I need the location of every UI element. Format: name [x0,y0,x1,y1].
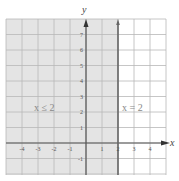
y-tick-label: 1 [80,125,83,131]
x-tick-label: -2 [52,146,57,152]
x-axis-label: x [169,137,175,148]
y-tick-label: 3 [80,94,83,100]
x-tick-label: 4 [149,146,152,152]
x-tick-label: -4 [20,146,25,152]
x-tick-label: 1 [101,146,104,152]
x-tick-label: -1 [68,146,73,152]
y-tick-label: 4 [80,78,83,84]
x-axis-arrow-icon [161,141,170,146]
y-tick-label: 7 [80,32,83,38]
inequality-graph: -4-3-2-112347654321-1 x y x ≤ 2 x = 2 [0,0,179,181]
x-tick-label: -3 [36,146,41,152]
annotation-boundary: x = 2 [122,102,143,113]
y-axis-label: y [81,4,87,15]
y-tick-label: -1 [78,156,83,162]
x-tick-label: 3 [133,146,136,152]
annotation-inequality: x ≤ 2 [34,102,55,113]
y-tick-label: 6 [80,47,83,53]
y-tick-label: 2 [80,109,83,115]
x-tick-label: 2 [117,146,120,152]
y-tick-label: 5 [80,63,83,69]
